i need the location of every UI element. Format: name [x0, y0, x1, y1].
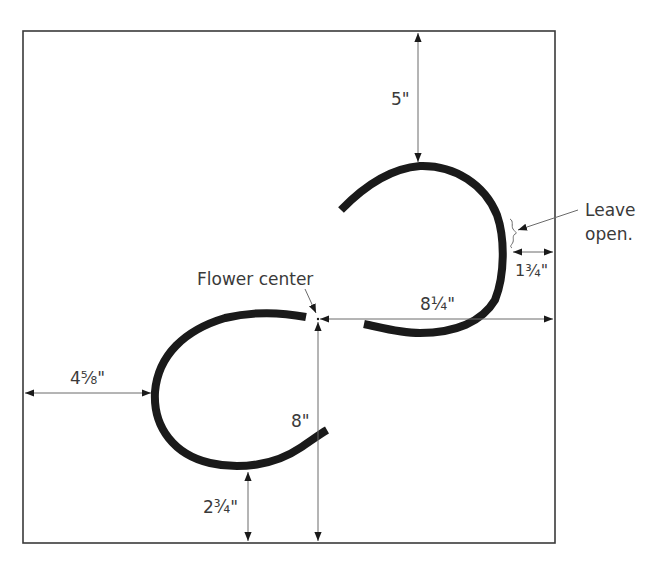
cord-lower-arc — [155, 313, 327, 466]
flower-center-point — [317, 318, 319, 320]
cord-layout-diagram: 5" Leave open. 1¾" 8¼" Flower center 8" … — [0, 0, 667, 567]
leave-open-brace-icon — [510, 219, 516, 248]
label-left-offset: 4⅝" — [70, 368, 105, 388]
label-bottom-offset: 2¾" — [203, 497, 238, 517]
leave-open-pointer — [518, 210, 578, 230]
label-right-gap: 1¾" — [515, 261, 548, 280]
label-leave-open-2: open. — [585, 224, 633, 244]
label-top-offset: 5" — [391, 89, 410, 109]
label-leave-open-1: Leave — [585, 200, 636, 220]
flower-center-pointer — [305, 289, 316, 313]
label-center-to-right: 8¼" — [420, 294, 455, 314]
label-flower-center: Flower center — [197, 269, 313, 289]
label-center-to-bottom: 8" — [291, 411, 310, 431]
